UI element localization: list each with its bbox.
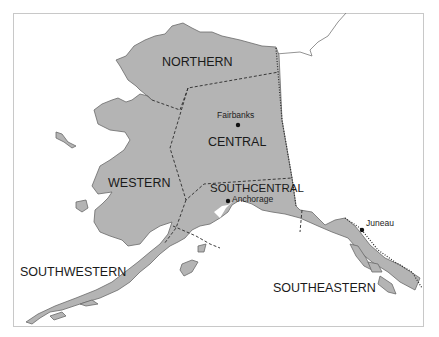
island (76, 200, 88, 212)
island (56, 132, 76, 148)
fairbanks-dot-icon (236, 123, 240, 127)
region-label-northern: NORTHERN (162, 56, 233, 69)
region-label-southcentral: SOUTHCENTRAL (210, 183, 304, 195)
juneau-dot-icon (360, 228, 364, 232)
canada-border (276, 48, 422, 288)
city-label-juneau: Juneau (366, 219, 394, 228)
city-label-anchorage: Anchorage (232, 195, 273, 204)
island (50, 312, 66, 320)
city-label-fairbanks: Fairbanks (217, 111, 254, 120)
region-label-southwestern: SOUTHWESTERN (20, 266, 126, 279)
island (198, 244, 206, 252)
region-label-southeastern: SOUTHEASTERN (273, 282, 376, 295)
region-label-central: CENTRAL (208, 136, 266, 149)
region-label-western: WESTERN (108, 177, 171, 190)
island (378, 276, 396, 294)
island (180, 260, 198, 276)
anchorage-dot-icon (226, 199, 230, 203)
